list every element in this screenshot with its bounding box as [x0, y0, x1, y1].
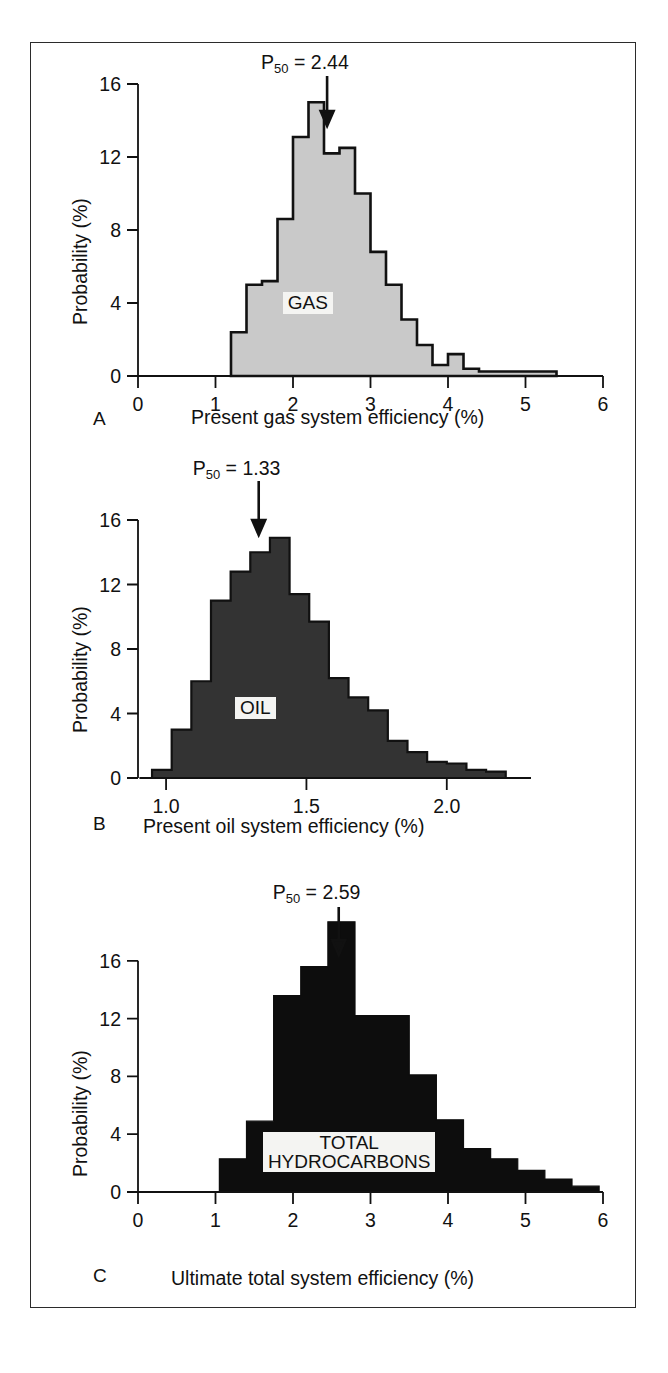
- panel-letter-b: B: [93, 813, 106, 835]
- oil-x-tick-1.5: 1.5: [293, 795, 320, 817]
- gas-y-axis: [127, 84, 138, 376]
- oil-y-tick-12: 12: [99, 574, 121, 596]
- oil-series-label: OIL: [235, 697, 276, 719]
- total-p50-prefix: P: [273, 881, 286, 903]
- oil-y-tick-8: 8: [110, 638, 121, 660]
- oil-x-axis: [139, 778, 531, 790]
- gas-p50-annotation: P50 = 2.44: [261, 51, 349, 74]
- gas-y-tick-labels: 0481216: [99, 73, 121, 387]
- total-plot-group: 0481216 0123456: [99, 907, 608, 1231]
- oil-y-tick-16: 16: [99, 509, 121, 531]
- total-series-label: TOTAL HYDROCARBONS: [263, 1132, 436, 1172]
- gas-series-label: GAS: [283, 292, 333, 314]
- total-x-tick-0: 0: [133, 1209, 144, 1231]
- oil-p50-annotation: P50 = 1.33: [193, 457, 281, 480]
- oil-x-axis-label: Present oil system efficiency (%): [143, 815, 424, 838]
- gas-y-tick-16: 16: [99, 73, 121, 95]
- oil-y-axis-label: Probability (%): [69, 606, 92, 733]
- total-p50-value: = 2.59: [300, 881, 360, 903]
- oil-y-tick-4: 4: [110, 703, 121, 725]
- gas-y-tick-4: 4: [110, 292, 121, 314]
- oil-y-tick-labels: 0481216: [99, 509, 121, 789]
- panel-letter-c: C: [93, 1265, 107, 1287]
- oil-y-tick-0: 0: [110, 767, 121, 789]
- gas-x-tick-0: 0: [133, 393, 144, 415]
- gas-x-axis-label: Present gas system efficiency (%): [191, 406, 484, 429]
- gas-plot-group: 0481216 0123456: [99, 73, 608, 415]
- oil-p50-subscript: 50: [206, 467, 220, 482]
- total-histogram-svg: 0481216 0123456: [31, 855, 637, 1309]
- total-series-label-line1: TOTAL: [268, 1133, 431, 1152]
- total-p50-subscript: 50: [286, 891, 300, 906]
- total-y-tick-4: 4: [110, 1123, 121, 1145]
- total-y-tick-8: 8: [110, 1065, 121, 1087]
- total-x-tick-5: 5: [520, 1209, 531, 1231]
- gas-x-axis: [138, 376, 603, 388]
- oil-plot-group: 0481216 1.01.52.0: [99, 481, 531, 817]
- total-y-axis-label: Probability (%): [69, 1050, 92, 1177]
- total-x-axis: [138, 1192, 603, 1204]
- gas-p50-prefix: P: [261, 51, 274, 73]
- oil-p50-arrow-icon: [252, 481, 265, 535]
- total-y-tick-12: 12: [99, 1008, 121, 1030]
- total-x-tick-3: 3: [365, 1209, 376, 1231]
- gas-y-tick-0: 0: [110, 365, 121, 387]
- oil-x-tick-2.0: 2.0: [433, 795, 460, 817]
- figure-frame: 0481216 0123456 P50 = 2.44 GAS Probabili…: [30, 42, 636, 1308]
- total-x-axis-label: Ultimate total system efficiency (%): [171, 1267, 474, 1290]
- total-x-tick-4: 4: [443, 1209, 454, 1231]
- total-x-tick-1: 1: [210, 1209, 221, 1231]
- gas-p50-subscript: 50: [274, 61, 288, 76]
- oil-histogram-path: [152, 538, 506, 778]
- panel-total-hydrocarbons: 0481216 0123456 P50 = 2.59 TOTAL HYDROCA…: [31, 855, 637, 1309]
- total-y-axis: [127, 961, 138, 1192]
- gas-y-tick-8: 8: [110, 219, 121, 241]
- total-x-tick-labels: 0123456: [133, 1209, 609, 1231]
- total-series-label-line2: HYDROCARBONS: [268, 1152, 431, 1171]
- oil-x-tick-1.0: 1.0: [153, 795, 180, 817]
- gas-y-axis-label: Probability (%): [69, 198, 92, 325]
- panel-letter-a: A: [93, 408, 106, 430]
- gas-histogram-path: [231, 102, 557, 376]
- total-p50-annotation: P50 = 2.59: [273, 881, 361, 904]
- gas-histogram-svg: 0481216 0123456: [31, 43, 637, 443]
- total-x-tick-2: 2: [288, 1209, 299, 1231]
- panel-gas: 0481216 0123456 P50 = 2.44 GAS Probabili…: [31, 43, 637, 443]
- total-y-tick-labels: 0481216: [99, 950, 121, 1203]
- gas-y-tick-12: 12: [99, 146, 121, 168]
- oil-p50-value: = 1.33: [220, 457, 280, 479]
- total-x-tick-6: 6: [598, 1209, 609, 1231]
- total-y-tick-0: 0: [110, 1181, 121, 1203]
- total-y-tick-16: 16: [99, 950, 121, 972]
- gas-p50-value: = 2.44: [289, 51, 349, 73]
- oil-histogram-svg: 0481216 1.01.52.0: [31, 443, 637, 855]
- oil-y-axis: [127, 520, 138, 778]
- oil-x-tick-labels: 1.01.52.0: [153, 795, 461, 817]
- gas-x-tick-5: 5: [520, 393, 531, 415]
- gas-x-tick-6: 6: [598, 393, 609, 415]
- oil-p50-prefix: P: [193, 457, 206, 479]
- panel-oil: 0481216 1.01.52.0 P50 = 1.33 OIL Probabi…: [31, 443, 637, 855]
